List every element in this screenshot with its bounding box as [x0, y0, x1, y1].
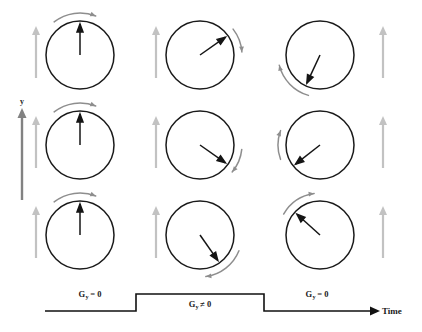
- waveform-label-relation: = 0: [90, 289, 101, 299]
- cell-r2c2: [166, 111, 242, 179]
- rotation-arc: [54, 103, 96, 112]
- gradient-arrow-head: [32, 206, 40, 215]
- waveform-label-subscript: y: [313, 293, 317, 300]
- cell-r1c1: [46, 12, 114, 89]
- rotation-arc-head: [239, 46, 244, 52]
- phase-vector-head: [77, 204, 83, 212]
- gradient-waveform-labels: Gy= 0Gy≠ 0Gy= 0: [79, 289, 329, 310]
- time-axis: [370, 307, 380, 316]
- gradient-arrow-head: [152, 206, 160, 215]
- rotation-arc-head: [276, 131, 281, 137]
- gradient-arrow-head: [379, 116, 387, 125]
- cell-r1c2: [166, 21, 244, 89]
- gradient-arrow-cell-r2c1: [32, 116, 40, 168]
- y-axis: [18, 108, 27, 200]
- waveform-label-gradient-on: Gy≠ 0: [189, 299, 212, 310]
- gradient-arrow-head: [379, 206, 387, 215]
- waveform-label-subscript: y: [86, 293, 90, 300]
- gradient-arrow-cell-r3c2: [152, 206, 160, 258]
- cell-r3c3: [284, 192, 354, 269]
- gradient-arrows-layer: [32, 26, 387, 258]
- gradient-arrow-cell-r1c1: [32, 26, 40, 78]
- gradient-arrow-cell-r1c3: [379, 26, 387, 78]
- phase-vector-head: [217, 156, 225, 163]
- gradient-arrow-head: [379, 26, 387, 35]
- spin-phase-diagram: y Gy= 0Gy≠ 0Gy= 0 Time: [0, 0, 422, 332]
- cell-r2c1: [46, 102, 114, 179]
- gradient-arrow-head: [152, 116, 160, 125]
- rotation-arc: [284, 193, 315, 214]
- gradient-arrow-head: [152, 26, 160, 35]
- cell-r3c2: [166, 201, 239, 278]
- time-axis-label: Time: [382, 306, 402, 316]
- time-axis-arrowhead: [370, 307, 380, 316]
- rotation-arc-head: [90, 192, 96, 196]
- cell-r1c3: [278, 21, 354, 95]
- gradient-arrow-head: [32, 116, 40, 125]
- gradient-arrow-cell-r2c3: [379, 116, 387, 168]
- spin-circles-layer: [46, 12, 354, 278]
- phase-vector-head: [77, 114, 83, 122]
- y-axis-arrowhead: [18, 108, 27, 118]
- rotation-arc: [54, 13, 96, 22]
- gradient-arrow-cell-r3c1: [32, 206, 40, 258]
- gradient-arrow-head: [32, 26, 40, 35]
- waveform-label-subscript: y: [196, 303, 200, 310]
- waveform-label-relation: ≠ 0: [200, 299, 211, 309]
- gradient-arrow-cell-r1c2: [152, 26, 160, 78]
- y-axis-label: y: [20, 97, 24, 106]
- rotation-arc-head: [90, 102, 96, 106]
- phase-vector-head: [307, 75, 313, 84]
- cell-r2c3: [276, 111, 354, 179]
- rotation-arc: [54, 193, 96, 202]
- waveform-label-gradient-off-after: Gy= 0: [306, 289, 329, 300]
- phase-vector-head: [211, 252, 218, 260]
- rotation-arc-head: [90, 12, 96, 16]
- waveform-label-relation: = 0: [317, 289, 328, 299]
- waveform-label-gradient-off-before: Gy= 0: [79, 289, 102, 300]
- gradient-arrow-cell-r2c2: [152, 116, 160, 168]
- rotation-arc: [279, 65, 308, 95]
- rotation-arc-head: [232, 166, 237, 172]
- phase-vector-head: [77, 24, 83, 32]
- phase-vector-head: [217, 37, 225, 44]
- gradient-arrow-cell-r3c3: [379, 206, 387, 258]
- cell-r3c1: [46, 192, 114, 269]
- figure-root: y Gy= 0Gy≠ 0Gy= 0 Time: [0, 0, 422, 332]
